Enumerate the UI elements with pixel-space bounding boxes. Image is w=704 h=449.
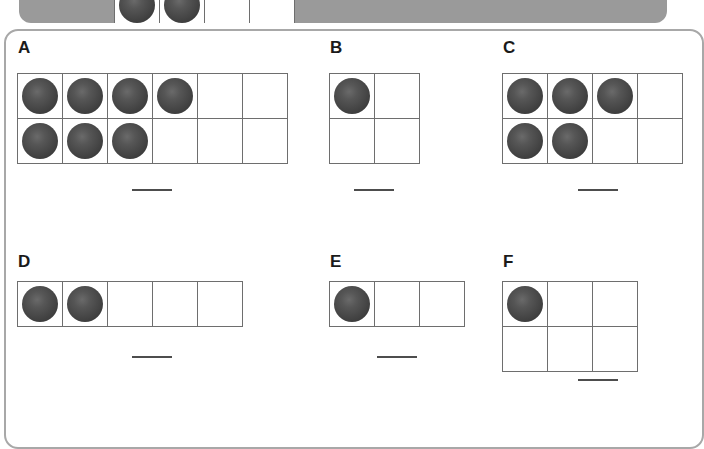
answer-line-f[interactable] <box>578 379 618 381</box>
grid-cell[interactable] <box>108 74 153 119</box>
counter-circle <box>334 78 370 114</box>
counter-grid <box>17 281 243 327</box>
problem-letter-e: E <box>330 253 342 270</box>
grid-cell[interactable] <box>198 119 243 164</box>
counter-circle <box>507 78 543 114</box>
grid-cell[interactable] <box>330 74 375 119</box>
grid-cell[interactable] <box>153 282 198 327</box>
grid-cell[interactable] <box>153 119 198 164</box>
grid-cell[interactable] <box>593 327 638 372</box>
counter-circle <box>164 0 200 23</box>
grid-cell[interactable] <box>593 282 638 327</box>
grid-cell[interactable] <box>18 282 63 327</box>
grid-cell[interactable] <box>205 0 250 23</box>
grid-cell[interactable] <box>198 282 243 327</box>
counter-grid <box>502 73 683 164</box>
counter-circle <box>112 123 148 159</box>
grid-cell[interactable] <box>243 74 288 119</box>
grid-cell[interactable] <box>593 74 638 119</box>
answer-line-b[interactable] <box>354 189 394 191</box>
grid-cell[interactable] <box>420 282 465 327</box>
grid-cell[interactable] <box>548 282 593 327</box>
previous-question-panel <box>19 0 667 23</box>
problem-letter-f: F <box>503 253 514 270</box>
worksheet-panel: ABCDEF <box>4 29 704 449</box>
grid-cell[interactable] <box>108 119 153 164</box>
grid-cell[interactable] <box>153 74 198 119</box>
previous-question-counter-grid <box>114 0 295 23</box>
counter-circle <box>597 78 633 114</box>
counter-grid <box>502 281 638 372</box>
grid-cell[interactable] <box>503 74 548 119</box>
grid-cell[interactable] <box>375 282 420 327</box>
counter-circle <box>507 123 543 159</box>
grid-cell[interactable] <box>503 327 548 372</box>
grid-cell[interactable] <box>638 74 683 119</box>
grid-cell[interactable] <box>115 0 160 23</box>
answer-line-d[interactable] <box>132 356 172 358</box>
problem-letter-d: D <box>18 253 31 270</box>
grid-cell[interactable] <box>250 0 295 23</box>
grid-cell[interactable] <box>63 119 108 164</box>
grid-cell[interactable] <box>108 282 153 327</box>
counter-grid <box>17 73 288 164</box>
grid-cell[interactable] <box>638 119 683 164</box>
counter-circle <box>552 123 588 159</box>
counter-circle <box>334 286 370 322</box>
grid-cell[interactable] <box>330 282 375 327</box>
grid-cell[interactable] <box>63 74 108 119</box>
grid-cell[interactable] <box>243 119 288 164</box>
counter-circle <box>119 0 155 23</box>
counter-circle <box>22 123 58 159</box>
counter-circle <box>67 123 103 159</box>
grid-cell[interactable] <box>548 327 593 372</box>
counter-circle <box>112 78 148 114</box>
counter-grid <box>329 281 465 327</box>
counter-grid <box>329 73 420 164</box>
grid-cell[interactable] <box>503 282 548 327</box>
grid-cell[interactable] <box>18 119 63 164</box>
grid-cell[interactable] <box>63 282 108 327</box>
grid-cell[interactable] <box>330 119 375 164</box>
answer-line-e[interactable] <box>377 356 417 358</box>
grid-cell[interactable] <box>548 74 593 119</box>
grid-cell[interactable] <box>548 119 593 164</box>
problem-letter-c: C <box>503 39 516 56</box>
answer-line-c[interactable] <box>578 189 618 191</box>
counter-circle <box>22 286 58 322</box>
grid-cell[interactable] <box>375 74 420 119</box>
counter-circle <box>157 78 193 114</box>
grid-cell[interactable] <box>160 0 205 23</box>
problem-letter-b: B <box>330 39 343 56</box>
counter-circle <box>67 78 103 114</box>
answer-line-a[interactable] <box>132 189 172 191</box>
problem-letter-a: A <box>18 39 31 56</box>
counter-circle <box>507 286 543 322</box>
grid-cell[interactable] <box>18 74 63 119</box>
grid-cell[interactable] <box>503 119 548 164</box>
counter-circle <box>552 78 588 114</box>
counter-circle <box>22 78 58 114</box>
grid-cell[interactable] <box>375 119 420 164</box>
grid-cell[interactable] <box>593 119 638 164</box>
grid-cell[interactable] <box>198 74 243 119</box>
counter-circle <box>67 286 103 322</box>
